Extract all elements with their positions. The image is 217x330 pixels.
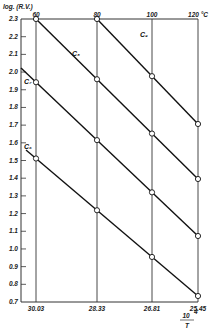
y-tick-label: 1.2 [9, 210, 18, 217]
y-tick-label: 1.1 [9, 227, 18, 234]
y-tick-label: 0.9 [9, 263, 18, 270]
data-point-c8 [94, 77, 99, 82]
labels: 2.32.22.12.01.91.81.71.61.51.41.31.21.11… [3, 3, 208, 329]
data-point-c6 [195, 293, 200, 298]
y-tick-label: 1.7 [9, 121, 18, 128]
series-lines [21, 16, 201, 298]
data-point-c7 [33, 80, 38, 85]
data-point-c7 [195, 233, 200, 238]
y-tick-label: 1.4 [9, 174, 18, 181]
y-tick-label: 1.6 [9, 139, 18, 146]
y-tick-label: 0.7 [9, 298, 18, 305]
y-tick-label: 1.0 [9, 245, 18, 252]
top-tick-label: 80 [93, 11, 101, 18]
x-tick-label: 26.81 [143, 305, 161, 312]
x-axis-label-den: T [185, 322, 190, 329]
x-axis-label-num: 10 [182, 312, 190, 319]
y-tick-label: 0.8 [9, 280, 18, 287]
x-tick-label: 30.03 [28, 305, 45, 312]
series-label-c9: C₉ [140, 31, 148, 38]
data-point-c6 [94, 208, 99, 213]
gridlines [36, 19, 198, 302]
y-tick-label: 1.8 [9, 103, 18, 110]
data-point-c9 [149, 74, 154, 79]
series-label-c8: C₈ [72, 50, 80, 57]
x-axis-label-exp: 4 [193, 308, 198, 315]
series-label-c6: C₆ [24, 143, 32, 150]
top-tick-label: 60 [32, 11, 40, 18]
y-axis-label: log. (R.V.) [3, 3, 33, 11]
axes [21, 19, 198, 302]
data-point-c8 [195, 176, 200, 181]
y-tick-label: 1.3 [9, 192, 18, 199]
y-tick-label: 2.0 [8, 68, 18, 75]
data-point-c6 [149, 254, 154, 259]
data-point-c8 [149, 131, 154, 136]
x-tick-label: 25.45 [189, 305, 207, 312]
top-tick-label: 100 [147, 11, 158, 18]
data-point-c6 [33, 156, 38, 161]
data-point-c7 [149, 190, 154, 195]
data-point-c9 [195, 121, 200, 126]
series-line-c6 [26, 150, 198, 296]
y-tick-label: 2.1 [8, 50, 18, 57]
y-tick-label: 2.2 [8, 33, 18, 40]
series-label-c7: C₇ [24, 78, 32, 85]
y-tick-label: 1.5 [9, 157, 18, 164]
y-tick-label: 1.9 [9, 86, 18, 93]
chart: 2.32.22.12.01.91.81.71.61.51.41.31.21.11… [0, 0, 217, 330]
data-point-c7 [94, 138, 99, 143]
x-tick-label: 28.33 [88, 305, 106, 312]
top-tick-label: 120 °C [188, 11, 208, 18]
y-tick-label: 2.3 [8, 15, 18, 22]
